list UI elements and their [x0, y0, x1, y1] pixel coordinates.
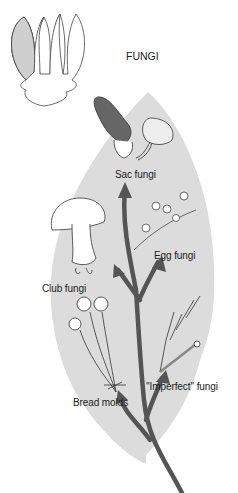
- label-egg-fungi: Egg fungi: [154, 250, 195, 261]
- fungi-phylogeny-diagram: [0, 0, 238, 493]
- label-imperfect-fungi: ''Imperfect'' fungi: [146, 381, 218, 392]
- label-club-fungi: Club fungi: [42, 283, 86, 294]
- diagram-title: FUNGI: [126, 50, 159, 62]
- kingdom-icon: [11, 14, 84, 106]
- label-bread-molds: Bread molds: [73, 397, 128, 408]
- label-sac-fungi: Sac fungi: [115, 169, 156, 180]
